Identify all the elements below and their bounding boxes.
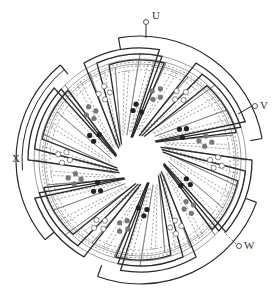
rotor-bore [118,138,162,182]
terminal-label-v: V [260,100,268,111]
terminal-label-x: X [12,153,20,164]
winding-diagram [0,0,280,295]
terminal-label-w: W [244,240,254,251]
terminal-label-u: U [152,10,160,21]
